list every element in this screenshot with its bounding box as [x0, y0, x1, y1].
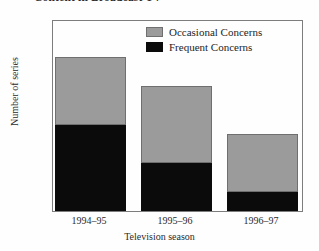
chart-figure: Content in Broadcast TV 20 15 10 5 0 Num… [0, 0, 319, 251]
plot-area: Occasional Concerns Frequent Concerns [52, 20, 303, 212]
bar-segment-occasional [141, 86, 212, 163]
legend-item-occasional: Occasional Concerns [146, 25, 262, 39]
legend-label-frequent: Frequent Concerns [169, 41, 252, 53]
x-axis-title: Television season [0, 231, 319, 242]
bar-segment-frequent [141, 163, 212, 211]
chart-title: Content in Broadcast TV [34, 0, 214, 3]
x-tick-label-1996-97: 1996–97 [216, 215, 306, 226]
chart-legend: Occasional Concerns Frequent Concerns [146, 25, 262, 55]
x-tick-label-1994-95: 1994–95 [44, 215, 134, 226]
bar-segment-occasional [55, 57, 126, 124]
bar-segment-occasional [227, 134, 298, 192]
y-axis-title: Number of series [9, 22, 20, 162]
bar-segment-frequent [227, 192, 298, 211]
legend-swatch-frequent-icon [146, 42, 163, 52]
legend-item-frequent: Frequent Concerns [146, 40, 262, 54]
legend-swatch-occasional-icon [146, 27, 163, 37]
legend-label-occasional: Occasional Concerns [169, 26, 262, 38]
x-tick-label-1995-96: 1995–96 [130, 215, 220, 226]
bar-segment-frequent [55, 125, 126, 211]
